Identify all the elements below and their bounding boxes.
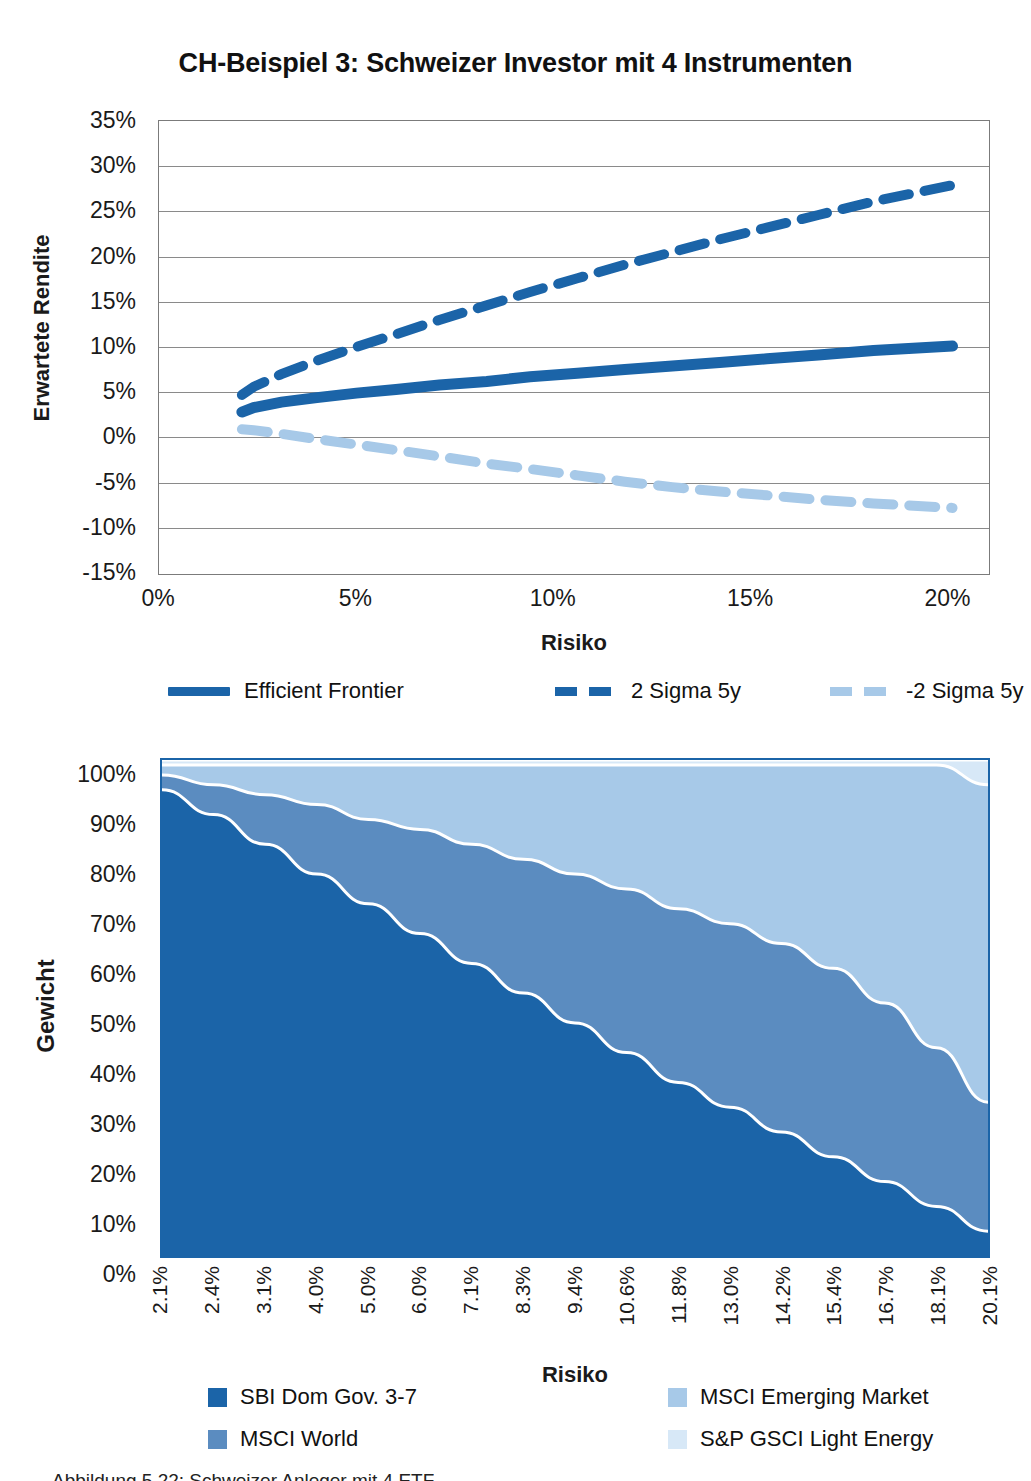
frontier-x-tick: 15% xyxy=(727,585,773,612)
weights-legend: SBI Dom Gov. 3-7MSCI WorldMSCI Emerging … xyxy=(0,1384,1031,1464)
legend-swatch-icon xyxy=(208,1388,227,1407)
weights-x-tick: 3.1% xyxy=(252,1266,276,1314)
weights-y-tick: 100% xyxy=(77,761,136,788)
frontier-y-tick: 20% xyxy=(90,242,136,269)
weights-y-axis-labels: 100%90%80%70%60%50%40%30%20%10%0% xyxy=(0,758,150,1258)
frontier-y-axis-labels: 35%30%25%20%15%10%5%0%-5%-10%-15% xyxy=(0,110,150,585)
frontier-curves xyxy=(159,121,988,573)
weights-x-tick: 2.4% xyxy=(200,1266,224,1314)
weights-legend-label: MSCI Emerging Market xyxy=(700,1384,929,1410)
frontier-y-tick: 5% xyxy=(103,378,136,405)
frontier-y-tick: -10% xyxy=(82,513,136,540)
weights-x-tick: 2.1% xyxy=(148,1266,172,1314)
frontier-x-axis-labels: 0%5%10%15%20% xyxy=(158,585,990,625)
weights-x-tick: 6.0% xyxy=(407,1266,431,1314)
frontier-y-tick: -15% xyxy=(82,559,136,586)
frontier-series-line xyxy=(242,429,953,508)
frontier-legend-item: -2 Sigma 5y xyxy=(830,678,1023,704)
frontier-x-tick: 10% xyxy=(530,585,576,612)
weights-y-tick: 30% xyxy=(90,1111,136,1138)
weights-x-tick: 8.3% xyxy=(511,1266,535,1314)
frontier-series-line xyxy=(242,185,953,395)
frontier-y-tick: 30% xyxy=(90,152,136,179)
weights-y-tick: 60% xyxy=(90,961,136,988)
frontier-legend-label: Efficient Frontier xyxy=(244,678,404,704)
frontier-plot-area xyxy=(158,120,990,575)
frontier-series-line xyxy=(242,346,953,412)
frontier-x-tick: 5% xyxy=(339,585,372,612)
weights-legend-item: SBI Dom Gov. 3-7 xyxy=(208,1384,417,1410)
weights-y-tick: 20% xyxy=(90,1161,136,1188)
frontier-x-axis-title: Risiko xyxy=(158,630,990,656)
weights-legend-item: MSCI World xyxy=(208,1426,358,1452)
weights-y-tick: 50% xyxy=(90,1011,136,1038)
legend-swatch-icon xyxy=(168,687,230,696)
weights-y-tick: 90% xyxy=(90,811,136,838)
weights-x-tick: 20.1% xyxy=(978,1266,1002,1326)
weights-x-tick: 16.7% xyxy=(874,1266,898,1326)
weights-x-tick: 14.2% xyxy=(771,1266,795,1326)
figure-caption: Abbildung 5.22: Schweizer Anleger mit 4 … xyxy=(52,1470,434,1481)
frontier-y-tick: 35% xyxy=(90,107,136,134)
legend-swatch-icon xyxy=(830,687,892,696)
frontier-legend-label: 2 Sigma 5y xyxy=(631,678,741,704)
weights-legend-label: SBI Dom Gov. 3-7 xyxy=(240,1384,417,1410)
weights-y-tick: 70% xyxy=(90,911,136,938)
weights-plot-area xyxy=(160,758,990,1258)
frontier-y-tick: 10% xyxy=(90,333,136,360)
frontier-x-tick: 20% xyxy=(924,585,970,612)
weights-y-tick: 10% xyxy=(90,1211,136,1238)
weights-legend-item: MSCI Emerging Market xyxy=(668,1384,929,1410)
legend-swatch-icon xyxy=(555,687,617,696)
weights-x-tick: 11.8% xyxy=(667,1266,691,1324)
weights-x-tick: 13.0% xyxy=(719,1266,743,1326)
weights-legend-item: S&P GSCI Light Energy xyxy=(668,1426,933,1452)
legend-swatch-icon xyxy=(668,1430,687,1449)
weights-x-tick: 18.1% xyxy=(926,1266,950,1326)
weights-y-tick: 0% xyxy=(103,1261,136,1288)
frontier-x-tick: 0% xyxy=(141,585,174,612)
weights-x-axis-labels: 2.1%2.4%3.1%4.0%5.0%6.0%7.1%8.3%9.4%10.6… xyxy=(160,1266,990,1376)
weights-x-tick: 4.0% xyxy=(304,1266,328,1314)
figure-page: CH-Beispiel 3: Schweizer Investor mit 4 … xyxy=(0,0,1031,1481)
legend-swatch-icon xyxy=(208,1430,227,1449)
weights-legend-label: MSCI World xyxy=(240,1426,358,1452)
figure-title: CH-Beispiel 3: Schweizer Investor mit 4 … xyxy=(0,48,1031,79)
frontier-y-tick: -5% xyxy=(95,468,136,495)
efficient-frontier-chart: Erwartete Rendite 35%30%25%20%15%10%5%0%… xyxy=(0,110,1031,670)
frontier-y-tick: 0% xyxy=(103,423,136,450)
frontier-legend: Efficient Frontier2 Sigma 5y-2 Sigma 5y xyxy=(0,678,1031,724)
frontier-legend-item: Efficient Frontier xyxy=(168,678,404,704)
frontier-y-tick: 15% xyxy=(90,287,136,314)
weights-x-tick: 9.4% xyxy=(563,1266,587,1314)
weights-x-tick: 5.0% xyxy=(356,1266,380,1314)
weights-y-tick: 80% xyxy=(90,861,136,888)
weights-x-tick: 15.4% xyxy=(822,1266,846,1326)
legend-swatch-icon xyxy=(668,1388,687,1407)
frontier-y-tick: 25% xyxy=(90,197,136,224)
frontier-legend-item: 2 Sigma 5y xyxy=(555,678,741,704)
weights-y-tick: 40% xyxy=(90,1061,136,1088)
frontier-legend-label: -2 Sigma 5y xyxy=(906,678,1023,704)
weights-x-tick: 10.6% xyxy=(615,1266,639,1326)
weights-x-tick: 7.1% xyxy=(459,1266,483,1314)
weights-areas xyxy=(162,760,988,1256)
weights-legend-label: S&P GSCI Light Energy xyxy=(700,1426,933,1452)
weights-chart: Gewicht 100%90%80%70%60%50%40%30%20%10%0… xyxy=(0,742,1031,1382)
